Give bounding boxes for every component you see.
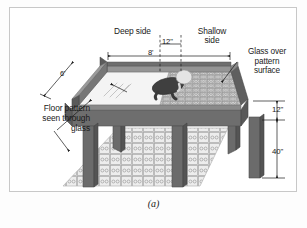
leader-floor-pattern-lower: [54, 131, 69, 151]
dimension-label-table-length: 8': [148, 49, 153, 57]
figure-caption: (a): [0, 198, 307, 209]
label-glass-over-pattern-surface: Glass over pattern surface: [237, 47, 297, 76]
label-deep-side: Deep side: [114, 27, 151, 36]
dimension-label-leg-height: 40": [272, 148, 283, 156]
dimension-6ft: [40, 62, 73, 99]
dimension-label-frame-depth: 12": [272, 106, 283, 114]
figure-container: Deep side Shallow side Glass over patter…: [0, 0, 307, 228]
dimension-label-table-width: 6': [60, 70, 65, 78]
label-floor-pattern-seen-through-glass: Floor pattern seen through glass: [12, 104, 90, 134]
dimension-8ft: [108, 52, 230, 60]
dimension-label-center-gap: 12": [162, 38, 173, 46]
label-shallow-side: Shallow side: [191, 27, 233, 45]
table-back-rail: [100, 57, 231, 72]
